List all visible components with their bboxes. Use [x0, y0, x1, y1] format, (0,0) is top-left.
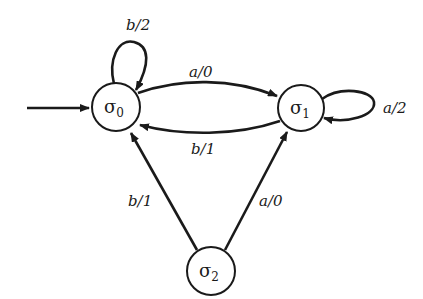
state-s1: σ1 — [278, 85, 324, 131]
label-s1-s0: b/1 — [191, 140, 215, 158]
edge-s2-s1 — [225, 132, 287, 250]
label-loop-s1: a/2 — [383, 99, 407, 117]
state-diagram: b/2 a/0 b/1 a/2 b/1 a/0 σ0 σ1 σ2 — [0, 0, 423, 299]
label-s2-s0: b/1 — [128, 192, 152, 210]
label-s0-s1: a/0 — [189, 63, 213, 81]
label-s2-s1: a/0 — [259, 192, 283, 210]
state-s2: σ2 — [187, 247, 235, 295]
edge-loop-s1 — [322, 91, 374, 120]
edge-s0-s1 — [138, 82, 277, 96]
label-loop-s0: b/2 — [126, 16, 150, 34]
state-s0: σ0 — [92, 83, 140, 131]
edge-s1-s0 — [140, 121, 280, 133]
